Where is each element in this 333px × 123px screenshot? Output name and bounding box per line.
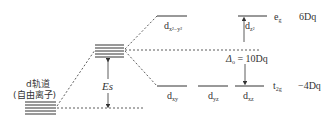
connector-dashed-1 [57, 50, 95, 106]
crystal-field-diagram: Es d轨道 (自由离子) dx²−y² dz² dxy dyz dxz Δo … [0, 0, 333, 123]
eg-energy: 6Dq [299, 11, 316, 22]
label-dxz: dxz [243, 90, 254, 102]
label-dz2: dz² [245, 20, 255, 32]
spherical-field-levels [95, 45, 124, 57]
label-dx2y2: dx²−y² [164, 20, 182, 32]
free-ion-label-1: d轨道 [26, 78, 50, 89]
free-ion-levels [25, 102, 56, 114]
label-dyz: dyz [208, 90, 219, 102]
connector-dashed-eg [125, 16, 157, 49]
label-dxy: dxy [167, 90, 178, 102]
t2g-label: t2g [273, 80, 282, 92]
t2g-energy: −4Dq [298, 80, 321, 91]
es-label: Es [101, 80, 113, 92]
connector-dashed-t2g [125, 51, 157, 86]
free-ion-label-2: (自由离子) [13, 89, 56, 100]
eg-label: eg [274, 11, 281, 23]
delta-label: Δo = 10Dq [225, 53, 268, 65]
